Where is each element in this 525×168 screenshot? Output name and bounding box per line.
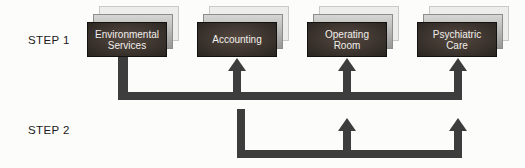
step-down-allocation-diagram: STEP 1 STEP 2 Environmental Services — [0, 0, 525, 168]
department-box-operating-room: Operating Room — [307, 22, 387, 57]
arrow-shaft — [343, 130, 351, 158]
step2-label: STEP 2 — [28, 124, 70, 136]
step2-arrow-to-operating-room — [338, 118, 356, 158]
step1-horizontal-line — [118, 92, 462, 100]
department-label: Operating Room — [325, 29, 369, 51]
department-box-face: Operating Room — [307, 22, 387, 57]
step1-arrow-to-psychiatric-care — [449, 58, 467, 100]
arrow-shaft — [233, 70, 241, 100]
arrow-shaft — [454, 70, 462, 100]
department-label: Environmental Services — [95, 29, 159, 51]
arrow-shaft — [454, 130, 462, 158]
department-box-face: Psychiatric Care — [417, 22, 497, 57]
department-box-psychiatric-care: Psychiatric Care — [417, 22, 497, 57]
step1-label: STEP 1 — [28, 34, 70, 46]
department-label: Accounting — [212, 34, 261, 45]
department-box-face: Environmental Services — [87, 22, 167, 57]
arrow-shaft — [343, 70, 351, 100]
department-box-accounting: Accounting — [197, 22, 277, 57]
department-label: Psychiatric Care — [433, 29, 481, 51]
step1-arrow-to-accounting — [228, 58, 246, 100]
step1-arrow-to-operating-room — [338, 58, 356, 100]
department-box-face: Accounting — [197, 22, 277, 57]
step2-arrow-to-psychiatric-care — [449, 118, 467, 158]
department-box-environmental-services: Environmental Services — [87, 22, 167, 57]
